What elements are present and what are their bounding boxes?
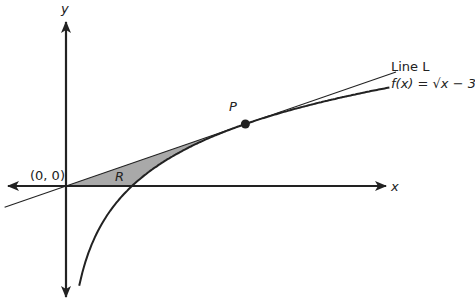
y-axis-label: y <box>60 1 69 16</box>
point-p-label: P <box>229 99 237 114</box>
region-label: R <box>115 169 124 184</box>
function-label: f(x) = √x − 3 <box>391 76 475 91</box>
line-l-label: Line L <box>391 59 430 74</box>
point-p <box>241 120 250 129</box>
origin-label: (0, 0) <box>30 168 65 183</box>
diagram-canvas: y x (0, 0) R P Line L f(x) = √x − 3 <box>0 0 475 299</box>
x-axis-label: x <box>390 179 399 194</box>
